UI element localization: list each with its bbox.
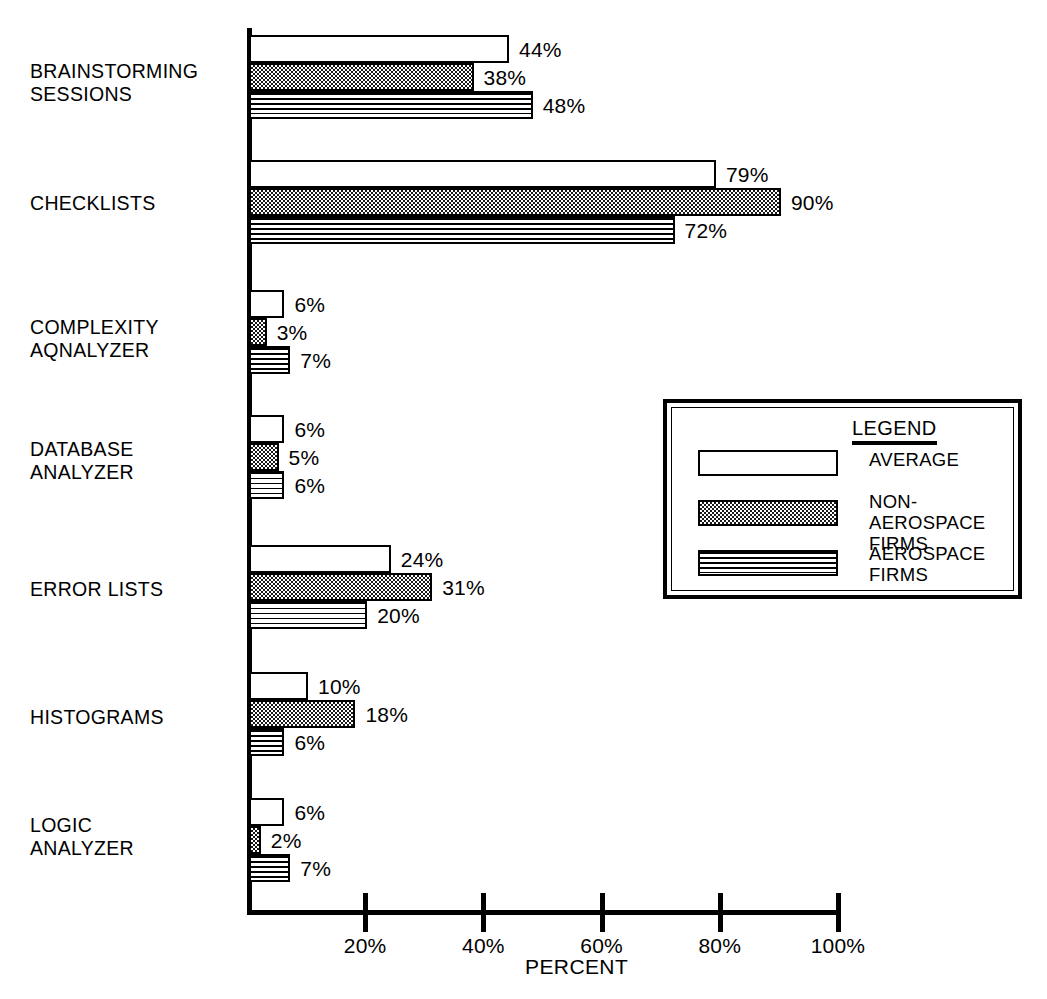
bar-value-label-6-2: 7%	[300, 857, 331, 881]
bar-1-0	[249, 160, 716, 188]
legend-swatch-1	[698, 500, 838, 526]
bar-value-label-2-0: 6%	[294, 293, 325, 317]
bar-3-0	[249, 415, 284, 443]
bar-value-label-6-0: 6%	[294, 801, 325, 825]
bar-value-label-3-1: 5%	[289, 446, 320, 470]
x-axis-tick	[836, 893, 841, 932]
legend-title: LEGEND	[852, 417, 937, 445]
category-label-6: LOGIC ANALYZER	[30, 814, 134, 860]
category-label-0: BRAINSTORMING SESSIONS	[30, 60, 198, 106]
bar-value-label-4-2: 20%	[377, 604, 420, 628]
bar-value-label-1-0: 79%	[726, 163, 769, 187]
x-axis-tick-label: 100%	[793, 934, 883, 958]
bar-value-label-3-2: 6%	[294, 474, 325, 498]
legend-box: LEGENDAVERAGENON-AEROSPACE FIRMSAEROSPAC…	[663, 399, 1022, 599]
bar-value-label-0-2: 48%	[543, 94, 586, 118]
bar-value-label-5-1: 18%	[365, 703, 408, 727]
category-label-2: COMPLEXITY AQNALYZER	[30, 316, 159, 362]
x-axis-line	[247, 910, 841, 915]
x-axis-title: PERCENT	[525, 955, 628, 979]
legend-label-0: AVERAGE	[869, 449, 959, 470]
bar-0-1	[249, 63, 474, 91]
x-axis-tick	[481, 893, 486, 932]
bar-3-1	[249, 443, 279, 471]
bar-2-1	[249, 318, 267, 346]
bar-4-1	[249, 573, 432, 601]
bar-4-0	[249, 545, 391, 573]
x-axis-tick-label: 80%	[675, 934, 765, 958]
bar-1-2	[249, 216, 675, 244]
bar-value-label-4-1: 31%	[442, 576, 485, 600]
x-axis-tick	[718, 893, 723, 932]
bar-chart: 20%40%60%80%100%PERCENTBRAINSTORMING SES…	[0, 0, 1047, 999]
bar-value-label-2-1: 3%	[277, 321, 308, 345]
bar-2-2	[249, 346, 290, 374]
bar-5-2	[249, 728, 284, 756]
bar-value-label-6-1: 2%	[271, 829, 302, 853]
bar-0-2	[249, 91, 533, 119]
bar-6-1	[249, 826, 261, 854]
legend-label-2: AEROSPACE FIRMS	[869, 543, 985, 585]
x-axis-tick-label: 40%	[438, 934, 528, 958]
legend-swatch-0	[698, 450, 838, 476]
category-label-5: HISTOGRAMS	[30, 706, 164, 729]
bar-value-label-5-0: 10%	[318, 675, 361, 699]
bar-4-2	[249, 601, 367, 629]
bar-5-0	[249, 672, 308, 700]
bar-1-1	[249, 188, 781, 216]
x-axis-tick-label: 20%	[320, 934, 410, 958]
bar-value-label-1-2: 72%	[685, 219, 728, 243]
bar-3-2	[249, 471, 284, 499]
x-axis-tick	[600, 893, 605, 932]
bar-value-label-1-1: 90%	[791, 191, 834, 215]
bar-6-2	[249, 854, 290, 882]
legend-swatch-2	[698, 550, 838, 576]
bar-value-label-3-0: 6%	[294, 418, 325, 442]
bar-value-label-5-2: 6%	[294, 731, 325, 755]
category-label-4: ERROR LISTS	[30, 578, 163, 601]
bar-value-label-2-2: 7%	[300, 349, 331, 373]
bar-2-0	[249, 290, 284, 318]
bar-5-1	[249, 700, 355, 728]
bar-6-0	[249, 798, 284, 826]
x-axis-tick	[363, 893, 368, 932]
bar-value-label-0-0: 44%	[519, 38, 562, 62]
bar-value-label-4-0: 24%	[401, 548, 444, 572]
category-label-1: CHECKLISTS	[30, 192, 155, 215]
category-label-3: DATABASE ANALYZER	[30, 438, 134, 484]
bar-value-label-0-1: 38%	[484, 66, 527, 90]
bar-0-0	[249, 35, 509, 63]
